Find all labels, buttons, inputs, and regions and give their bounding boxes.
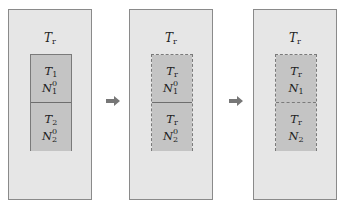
right-arrow-icon (106, 96, 120, 106)
partition-wall-solid (152, 102, 192, 103)
outer-temperature-label: Tr (9, 31, 91, 46)
subsystem-2-cell: Tr N02 (152, 103, 192, 151)
outer-temperature-label: Tr (130, 31, 212, 46)
inner-subsystems-box: Tr N01 Tr N02 (151, 54, 193, 151)
subsystem-1-particle-count: N01 (152, 81, 192, 95)
panel-initial-state: Tr T1 N01 T2 N02 (8, 9, 92, 200)
subsystem-2-temperature: Tr (276, 112, 316, 127)
subsystem-1-particle-count: N1 (276, 81, 316, 96)
subsystem-2-temperature: T2 (31, 112, 71, 127)
subsystem-2-cell: Tr N2 (276, 103, 316, 151)
subsystem-1-cell: T1 N01 (31, 55, 71, 103)
subsystem-2-particle-count: N2 (276, 129, 316, 144)
subsystem-2-cell: T2 N02 (31, 103, 71, 151)
inner-subsystems-box: Tr N1 Tr N2 (275, 54, 317, 151)
outer-temperature-label: Tr (254, 31, 336, 46)
partition-wall-permeable (276, 102, 316, 103)
subsystem-1-temperature: Tr (276, 64, 316, 79)
subsystem-2-particle-count: N02 (152, 129, 192, 143)
right-arrow-icon (229, 96, 243, 106)
inner-subsystems-box: T1 N01 T2 N02 (30, 54, 72, 151)
subsystem-2-particle-count: N02 (31, 129, 71, 143)
subsystem-1-cell: Tr N01 (152, 55, 192, 103)
panel-thermal-equilibrium: Tr Tr N01 Tr N02 (129, 9, 213, 200)
subsystem-1-temperature: Tr (152, 64, 192, 79)
subsystem-1-cell: Tr N1 (276, 55, 316, 103)
subsystem-1-temperature: T1 (31, 64, 71, 79)
subsystem-1-particle-count: N01 (31, 81, 71, 95)
subsystem-2-temperature: Tr (152, 112, 192, 127)
panel-full-equilibrium: Tr Tr N1 Tr N2 (253, 9, 337, 200)
partition-wall-solid (31, 102, 71, 103)
